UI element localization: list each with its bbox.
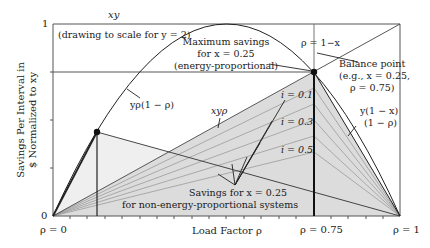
non-ep-label-1: Savings for x = 0.25 — [189, 187, 287, 198]
balance-point-label-3: ρ = 0.75) — [350, 82, 394, 93]
x-tick-rho-0: ρ = 0 — [40, 224, 67, 235]
svg-text:Savings Per Interval in: Savings Per Interval in — [15, 62, 26, 178]
y-tick-0: 0 — [41, 210, 47, 221]
balance-point-dot — [311, 69, 317, 75]
x-tick-rho-0.75: ρ = 0.75 — [300, 224, 343, 235]
right-line-label-2: (1 − ρ) — [364, 117, 397, 128]
savings-diagram: 1 0 ρ = 0 ρ = 0.75 ρ = 1 Load Factor ρ S… — [0, 0, 430, 248]
x-axis-title: Load Factor ρ — [192, 225, 262, 236]
x-tick-rho-1: ρ = 1 — [393, 224, 420, 235]
top-label-xy: xy — [108, 9, 120, 20]
left-point-dot — [94, 129, 100, 135]
rho-1-minus-x-label: ρ = 1−x — [301, 37, 341, 48]
max-savings-label-3: (energy-proportional) — [174, 60, 278, 71]
max-savings-label-2: for x = 0.25 — [197, 48, 254, 59]
balance-point-label-2: (e.g., x = 0.25, — [339, 70, 410, 81]
i-0.1-label: i = 0.1 — [281, 89, 313, 100]
curve-label: yρ(1 − ρ) — [129, 99, 174, 110]
svg-text:$ Normalized to xy: $ Normalized to xy — [27, 72, 38, 169]
right-line-label-1: y(1 − x) — [359, 105, 398, 116]
max-savings-label-1: Maximum savings — [183, 36, 270, 47]
scale-note: (drawing to scale for y = 2) — [58, 29, 190, 40]
i-0.3-label: i = 0.3 — [281, 116, 313, 127]
balance-point-label-1: Balance point — [339, 58, 405, 69]
xyrho-label: xyρ — [211, 105, 228, 116]
y-tick-1: 1 — [42, 18, 48, 29]
non-ep-label-2: for non-energy-proportional systems — [122, 199, 298, 210]
y-axis-title: Savings Per Interval in $ Normalized to … — [15, 62, 38, 178]
i-0.5-label: i = 0.5 — [281, 144, 313, 155]
